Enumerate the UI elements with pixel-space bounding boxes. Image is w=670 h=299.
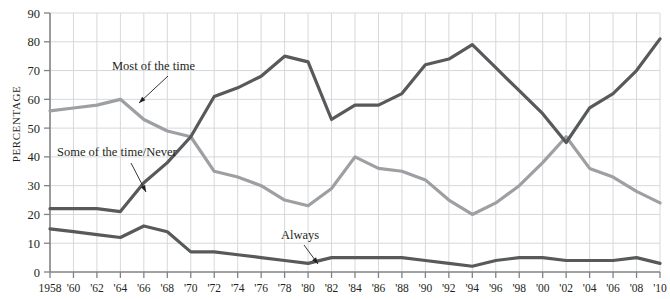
y-tick-label: 30 [28,179,41,193]
x-tick-label: '86 [372,282,386,294]
y-tick-label: 80 [28,35,41,49]
x-tick-labels: 1958'60'62'64'66'68'70'72'74'76'78'80'82… [39,282,668,294]
y-tick-label: 50 [28,122,41,136]
x-tick-label: '94 [466,282,480,294]
x-tick-label: '82 [325,282,339,294]
x-tick-label: '00 [536,282,550,294]
annotation-most-of-the-time: Most of the time [112,59,195,103]
x-tick-label: '96 [489,282,503,294]
y-tick-labels: 0102030405060708090 [28,7,41,280]
x-tick-label: '62 [90,282,104,294]
x-tick-label: '64 [114,282,128,294]
y-tick-label: 90 [28,7,41,21]
annotation-label: Always [281,228,319,242]
x-tick-label: '98 [512,282,526,294]
x-tick-label: '90 [419,282,433,294]
annotation-label: Some of the time/Never [57,145,178,159]
x-tick-label: '70 [184,282,198,294]
x-tick-label: '76 [254,282,268,294]
y-tick-label: 10 [28,237,41,251]
x-tick-label: '78 [278,282,292,294]
y-tick-label: 70 [28,64,41,78]
y-tick-label: 60 [28,93,41,107]
x-tick-label: '84 [348,282,362,294]
x-tick-label: '66 [137,282,151,294]
x-tick-label: '60 [67,282,81,294]
y-tick-label: 0 [34,266,40,280]
x-tick-label: '08 [630,282,644,294]
y-tick-label: 20 [28,208,41,222]
x-tick-label: '06 [606,282,620,294]
x-tick-label: '74 [231,282,245,294]
x-tick-label: '04 [583,282,597,294]
x-tick-label: 1958 [39,282,62,294]
x-tick-label: '92 [442,282,456,294]
x-tick-label: '88 [395,282,409,294]
x-tick-label: '02 [559,282,573,294]
annotation-label: Most of the time [112,59,195,73]
annotation-always: Always [281,228,319,264]
y-tick-label: 40 [28,150,41,164]
x-tick-label: '72 [207,282,221,294]
x-tick-label: '68 [161,282,175,294]
x-tick-label: '80 [301,282,315,294]
chart-figure: PERCENTAGE 0102030405060708090 1958'60'6… [0,0,670,299]
line-chart-svg: 0102030405060708090 1958'60'62'64'66'68'… [0,0,670,299]
x-tick-label: '10 [653,282,667,294]
